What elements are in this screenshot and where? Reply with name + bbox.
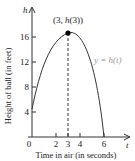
- x-axis-label: Time in air (in seconds): [36, 150, 117, 160]
- y-tick-label: 12: [20, 57, 29, 67]
- x-tick-label: 2: [54, 139, 59, 149]
- x-tick-label: 3: [66, 139, 71, 149]
- y-tick-label: 4: [25, 107, 30, 117]
- chart: 4 8 12 16 0 2 3 4 6 h t (3, h(3)) y = h(…: [0, 0, 135, 161]
- curve-label: y = h(t): [93, 55, 122, 65]
- x-axis-symbol: t: [126, 140, 129, 150]
- peak-point-label: (3, h(3)): [53, 15, 83, 25]
- x-tick-label: 4: [78, 139, 83, 149]
- y-axis-symbol: h: [23, 5, 28, 15]
- x-tick-label: 6: [102, 139, 107, 149]
- x-tick-label: 0: [27, 139, 32, 149]
- y-tick-label: 16: [20, 32, 30, 42]
- x-ticks: [56, 133, 104, 137]
- y-tick-label: 8: [25, 82, 30, 92]
- peak-point-marker: [65, 30, 70, 35]
- y-axis-label: Height of ball (in feet): [3, 48, 13, 125]
